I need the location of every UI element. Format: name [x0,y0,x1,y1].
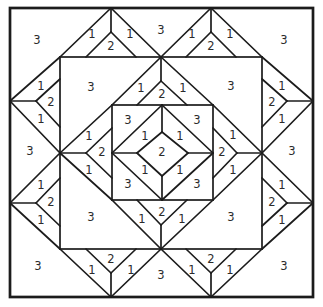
region-label: 3 [280,33,287,47]
region-label: 1 [126,27,133,41]
region-label: 3 [280,259,287,273]
region-label: 3 [227,210,234,224]
region-label: 1 [226,263,233,277]
region-label: 3 [124,177,131,191]
region-label: 1 [37,112,44,126]
quilt-pattern-diagram: 3333333312112112112112112112112133331211… [0,0,323,307]
region-label: 1 [226,27,233,41]
region-label: 1 [176,129,183,143]
region-label: 1 [85,129,92,143]
region-label: 3 [157,268,164,282]
region-label: 1 [278,79,285,93]
region-label: 3 [33,33,40,47]
region-label: 2 [207,252,214,266]
region-label: 2 [218,145,225,159]
region-label: 1 [37,79,44,93]
region-label: 3 [193,113,200,127]
region-label: 2 [158,145,165,159]
region-label: 3 [288,144,295,158]
region-label: 1 [278,112,285,126]
region-label: 1 [85,163,92,177]
region-label: 1 [141,163,148,177]
region-label: 1 [229,163,236,177]
region-label: 1 [278,213,285,227]
region-label: 2 [98,145,105,159]
region-label: 1 [188,27,195,41]
region-label: 3 [26,144,33,158]
region-label: 1 [229,128,236,142]
region-label: 1 [138,212,145,226]
quilt-pattern-svg: 3333333312112112112112112112112133331211… [0,0,323,307]
region-label: 2 [47,95,54,109]
region-label: 2 [268,95,275,109]
region-label: 3 [157,23,164,37]
region-label: 3 [87,80,94,94]
region-label: 1 [137,81,144,95]
region-label: 2 [107,252,114,266]
region-label: 2 [158,205,165,219]
region-label: 1 [278,178,285,192]
region-label: 1 [127,263,134,277]
region-label: 1 [179,81,186,95]
region-label: 1 [88,263,95,277]
region-label: 3 [124,113,131,127]
region-label: 1 [178,212,185,226]
region-label: 3 [34,259,41,273]
region-label: 2 [158,87,165,101]
region-label: 2 [207,39,214,53]
region-label: 1 [37,178,44,192]
region-label: 2 [107,39,114,53]
region-label: 1 [176,163,183,177]
region-label: 3 [87,210,94,224]
region-label: 2 [47,195,54,209]
region-label: 3 [227,79,234,93]
region-label: 1 [88,27,95,41]
region-label: 1 [188,263,195,277]
region-label: 3 [193,177,200,191]
region-label: 1 [141,129,148,143]
region-label: 2 [268,195,275,209]
region-label: 1 [37,213,44,227]
